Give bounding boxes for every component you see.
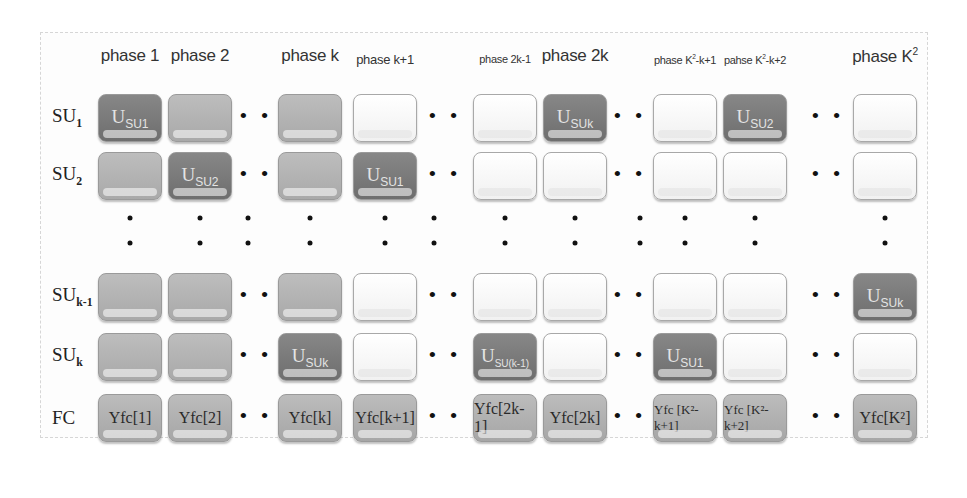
slot-cell: USUk [543,94,607,142]
ellipsis: • • [614,163,647,185]
vertical-ellipsis-dot [128,216,133,221]
row-label: SUk-1 [52,284,93,310]
slot-cell: Yfc[2] [168,394,232,442]
vertical-ellipsis-dot [638,216,643,221]
slot-cell [353,333,417,381]
vertical-ellipsis-dot [383,216,388,221]
slot-cell [473,152,537,200]
slot-cell: Yfc [K²-k+2] [723,394,787,442]
vertical-ellipsis-dot [753,241,758,246]
ellipsis: • • [240,284,273,306]
ellipsis: • • [240,405,273,427]
slot-cell [98,333,162,381]
vertical-ellipsis-dot [308,241,313,246]
slot-cell: USU2 [168,152,232,200]
slot-cell: USU2 [723,94,787,142]
slot-cell: Yfc[2k] [543,394,607,442]
vertical-ellipsis-dot [503,241,508,246]
ellipsis: • • [429,344,462,366]
ellipsis: • • [240,105,273,127]
slot-cell: Yfc[2k-1] [473,394,537,442]
slot-cell [473,94,537,142]
slot-cell: USU1 [653,333,717,381]
slot-cell [98,273,162,321]
vertical-ellipsis-dot [432,216,437,221]
slot-cell: Yfc[k] [278,394,342,442]
vertical-ellipsis-dot [198,241,203,246]
slot-cell: Yfc[k+1] [353,394,417,442]
slot-cell [723,333,787,381]
slot-cell: USUk [278,333,342,381]
slot-cell [353,94,417,142]
vertical-ellipsis-dot [683,216,688,221]
slot-cell: Yfc[1] [98,394,162,442]
slot-cell [653,273,717,321]
vertical-ellipsis-dot [246,241,251,246]
slot-cell [543,273,607,321]
slot-cell [723,152,787,200]
slot-cell: USU(k-1) [473,333,537,381]
ellipsis: • • [812,105,845,127]
ellipsis: • • [429,163,462,185]
slot-cell [278,94,342,142]
slot-cell [278,152,342,200]
slot-cell [98,152,162,200]
slot-cell [168,333,232,381]
ellipsis: • • [614,284,647,306]
ellipsis: • • [812,284,845,306]
phase-header: phase k+1 [356,52,414,67]
slot-cell: Yfc[K²] [853,394,917,442]
slot-cell [278,273,342,321]
ellipsis: • • [812,163,845,185]
ellipsis: • • [812,405,845,427]
vertical-ellipsis-dot [883,241,888,246]
vertical-ellipsis-dot [432,241,437,246]
slot-cell: USUk [853,273,917,321]
vertical-ellipsis-dot [573,241,578,246]
ellipsis: • • [429,405,462,427]
phase-header: pahse K2-k+2 [724,53,786,66]
slot-cell [168,94,232,142]
ellipsis: • • [614,344,647,366]
slot-cell [543,333,607,381]
vertical-ellipsis-dot [503,216,508,221]
ellipsis: • • [240,344,273,366]
vertical-ellipsis-dot [753,216,758,221]
row-label: SU1 [52,105,82,131]
ellipsis: • • [614,405,647,427]
vertical-ellipsis-dot [198,216,203,221]
slot-cell [473,273,537,321]
ellipsis: • • [429,105,462,127]
vertical-ellipsis-dot [883,216,888,221]
slot-cell: Yfc [K²-k+1] [653,394,717,442]
slot-cell [543,152,607,200]
slot-cell [723,273,787,321]
row-label: FC [52,407,75,429]
ellipsis: • • [614,105,647,127]
phase-header: phase 2 [171,46,229,66]
phase-header: phase 2k-1 [479,53,530,65]
slot-cell: USU1 [353,152,417,200]
vertical-ellipsis-dot [683,241,688,246]
slot-cell: USU1 [98,94,162,142]
slot-cell [653,94,717,142]
vertical-ellipsis-dot [128,241,133,246]
vertical-ellipsis-dot [573,216,578,221]
vertical-ellipsis-dot [246,216,251,221]
vertical-ellipsis-dot [308,216,313,221]
slot-cell [168,273,232,321]
slot-cell [653,152,717,200]
row-label: SUk [52,344,83,370]
phase-header: phase 1 [101,46,159,66]
slot-cell [853,333,917,381]
ellipsis: • • [240,163,273,185]
ellipsis: • • [429,284,462,306]
vertical-ellipsis-dot [638,241,643,246]
slot-cell [353,273,417,321]
vertical-ellipsis-dot [383,241,388,246]
slot-cell [853,94,917,142]
phase-header: phase K2 [852,46,918,67]
phase-header: phase 2k [542,46,609,66]
phase-header: phase k [281,46,338,66]
ellipsis: • • [812,344,845,366]
